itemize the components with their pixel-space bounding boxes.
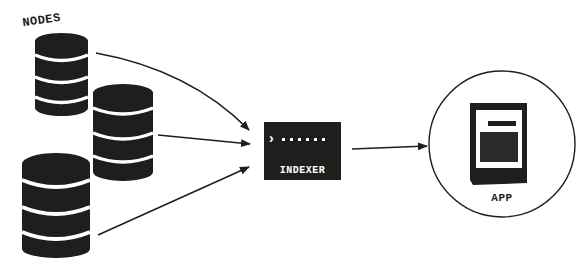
arrow-db2-to-indexer [158, 135, 250, 144]
indexer-label: INDEXER [280, 165, 326, 176]
nodes-label: NODES [22, 11, 62, 30]
app-label: APP [491, 192, 512, 204]
mobile-app-icon [470, 103, 527, 185]
terminal-prompt-icon: › [269, 130, 274, 146]
database-icon [35, 33, 88, 116]
database-icon [93, 84, 153, 181]
architecture-diagram: NODES › [0, 0, 587, 268]
database-icon [22, 153, 90, 258]
arrow-indexer-to-app [352, 146, 427, 149]
indexer-terminal-icon: › INDEXER [264, 122, 341, 180]
